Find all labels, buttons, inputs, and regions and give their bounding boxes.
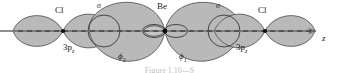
orbital-label-3pz-right: 3pz xyxy=(236,43,247,54)
orbital-label-phi2-sub: 2 xyxy=(123,57,126,63)
nucleus-cl-right xyxy=(263,29,267,33)
orbital-label-3pz-right-sub: z xyxy=(245,48,247,54)
sigma-label-left: σ xyxy=(97,2,101,10)
sigma-label-right: σ xyxy=(216,2,220,10)
atom-label-cl-right: Cl xyxy=(258,6,267,15)
atom-label-cl-left: Cl xyxy=(55,6,64,15)
orbital-diagram-figure: Cl Be Cl σ σ 3pz 3pz ϕ2 ϕ1 z Figure 1.10… xyxy=(0,0,339,73)
orbital-diagram-canvas xyxy=(0,0,339,73)
orbital-label-phi1-sub: 1 xyxy=(184,57,187,63)
orbital-label-3pz-left-text: 3p xyxy=(63,42,72,52)
nucleus-cl-left xyxy=(61,29,65,33)
orbital-label-3pz-left-sub: z xyxy=(72,48,74,54)
axis-label-z: z xyxy=(322,34,326,43)
orbital-label-3pz-left: 3pz xyxy=(63,43,74,54)
orbital-label-phi1: ϕ1 xyxy=(179,52,187,63)
orbital-label-phi2: ϕ2 xyxy=(118,52,126,63)
nucleus-be xyxy=(163,29,168,34)
figure-caption: Figure 1.10—S xyxy=(0,66,339,73)
orbital-label-3pz-right-text: 3p xyxy=(236,42,245,52)
atom-label-be: Be xyxy=(157,2,167,11)
